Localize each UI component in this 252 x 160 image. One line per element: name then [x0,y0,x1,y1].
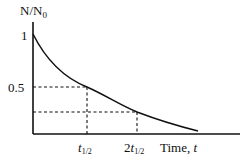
x-tick-2t-half: 2t1/2 [124,140,144,156]
x-axis-label: Time, t [160,140,197,155]
x-tick-t-half: t1/2 [78,140,92,156]
y-tick-0.5: 0.5 [8,80,24,95]
y-tick-1: 1 [21,28,28,43]
decay-curve [33,34,198,131]
reference-lines [33,87,137,134]
decay-chart: N/N0 1 0.5 t1/2 2t1/2 Time, t [0,0,252,160]
y-axis-label: N/N0 [20,3,47,20]
